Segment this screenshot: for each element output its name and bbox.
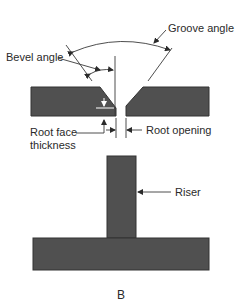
groove-angle-label: Groove angle: [168, 22, 234, 34]
bevel-angle-leader: [58, 58, 100, 70]
groove-joint: Groove angle Bevel angle Root face thick…: [6, 22, 234, 151]
left-bevel-extension: [66, 45, 92, 81]
right-plate: [126, 87, 209, 116]
bevel-angle-arc: [90, 70, 113, 75]
groove-angle-leader: [154, 30, 166, 43]
root-opening-label: Root opening: [146, 124, 211, 136]
riser-label: Riser: [175, 186, 201, 198]
root-face-label-line1: Root face: [30, 126, 77, 138]
root-face-label-line2: thickness: [30, 139, 76, 151]
left-plate: [31, 87, 116, 116]
right-bevel-extension: [148, 48, 172, 81]
weld-joint-diagram: Groove angle Bevel angle Root face thick…: [0, 0, 237, 306]
figure-caption: B: [117, 288, 125, 302]
riser-plate: [107, 156, 136, 238]
bevel-angle-label: Bevel angle: [6, 51, 64, 63]
groove-angle-arc: [73, 41, 170, 52]
base-plate: [33, 238, 209, 270]
tee-joint: Riser: [33, 156, 209, 270]
root-face-leader: [76, 120, 104, 133]
